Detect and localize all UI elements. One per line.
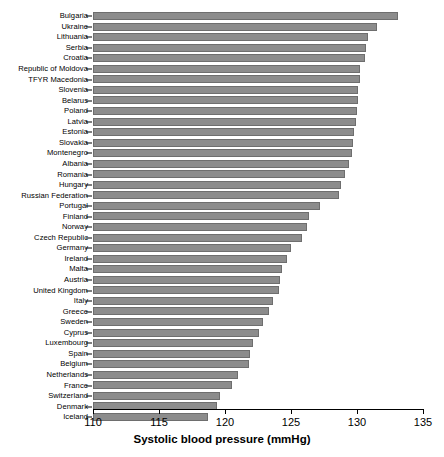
y-axis-tick	[86, 322, 92, 323]
chart-row: Slovenia	[0, 85, 444, 96]
bar	[93, 360, 249, 368]
y-axis-tick	[86, 100, 92, 101]
chart-row: Norway	[0, 222, 444, 233]
chart-row: Belarus	[0, 95, 444, 106]
bar	[93, 371, 238, 379]
bar	[93, 96, 358, 104]
category-label: Latvia	[67, 118, 88, 126]
y-axis-tick	[86, 248, 92, 249]
y-axis-tick	[86, 290, 92, 291]
y-axis-tick	[86, 396, 92, 397]
category-label: Bulgaria	[60, 12, 88, 20]
x-axis-tick	[93, 409, 94, 414]
bar	[93, 191, 339, 199]
y-axis-tick	[86, 47, 92, 48]
y-axis-tick	[86, 406, 92, 407]
chart-row: Ukraine	[0, 22, 444, 33]
category-label: Germany	[56, 245, 88, 253]
chart-row: Serbia	[0, 43, 444, 54]
chart-row: Switzerland	[0, 391, 444, 402]
chart-row: Ireland	[0, 254, 444, 265]
category-label: Denmark	[57, 403, 88, 411]
chart-row: Lithuania	[0, 32, 444, 43]
y-axis-tick	[86, 258, 92, 259]
x-axis-tick-label: 135	[414, 416, 432, 428]
bar	[93, 307, 269, 315]
chart-row: Hungary	[0, 180, 444, 191]
bar	[93, 244, 291, 252]
y-axis-tick	[86, 58, 92, 59]
bar	[93, 75, 360, 83]
category-label: Romania	[57, 171, 88, 179]
chart-row: Republic of Moldova	[0, 64, 444, 75]
y-axis-tick	[86, 364, 92, 365]
y-axis-tick	[86, 174, 92, 175]
bar	[93, 107, 357, 115]
chart-row: Netherlands	[0, 370, 444, 381]
chart-row: Denmark	[0, 401, 444, 412]
chart-row: Austria	[0, 275, 444, 286]
category-label: Belgium	[60, 361, 88, 369]
category-label: Switzerland	[48, 392, 88, 400]
category-label: United Kingdom	[33, 287, 88, 295]
x-axis-tick	[225, 409, 226, 414]
bar	[93, 23, 377, 31]
chart-row: Germany	[0, 243, 444, 254]
x-axis-tick	[159, 409, 160, 414]
chart-row: Spain	[0, 349, 444, 360]
y-axis-tick	[86, 385, 92, 386]
y-axis-tick	[86, 227, 92, 228]
y-axis-tick	[86, 26, 92, 27]
bar	[93, 392, 220, 400]
x-axis-title: Systolic blood pressure (mmHg)	[0, 433, 444, 445]
chart-row: Albania	[0, 159, 444, 170]
chart-row: United Kingdom	[0, 285, 444, 296]
category-label: Lithuania	[57, 34, 88, 42]
plot-area: BulgariaUkraineLithuaniaSerbiaCroatiaRep…	[0, 0, 444, 409]
bar	[93, 212, 309, 220]
bar	[93, 318, 263, 326]
y-axis-tick	[86, 79, 92, 80]
bar	[93, 276, 280, 284]
bar	[93, 202, 320, 210]
category-label: Republic of Moldova	[18, 65, 88, 73]
chart-row: Latvia	[0, 117, 444, 128]
x-axis-tick-label: 125	[282, 416, 300, 428]
chart-row: Belgium	[0, 359, 444, 370]
y-axis-tick	[86, 374, 92, 375]
bar	[93, 65, 360, 73]
y-axis-tick	[86, 206, 92, 207]
y-axis-tick	[86, 280, 92, 281]
category-label: TFYR Macedonia	[28, 76, 88, 84]
bar	[93, 223, 307, 231]
chart-row: Portugal	[0, 201, 444, 212]
category-label: Czech Republic	[34, 234, 88, 242]
category-label: Estonia	[62, 129, 88, 137]
y-axis-tick	[86, 111, 92, 112]
x-axis-line	[93, 409, 423, 410]
y-axis-tick	[86, 343, 92, 344]
category-label: Poland	[64, 107, 88, 115]
category-label: Croatia	[63, 55, 88, 63]
category-label: Ireland	[64, 255, 88, 263]
x-axis-tick	[423, 409, 424, 414]
x-axis-tick-label: 115	[150, 416, 168, 428]
systolic-blood-pressure-bar-chart: BulgariaUkraineLithuaniaSerbiaCroatiaRep…	[0, 0, 444, 457]
y-axis-tick	[86, 311, 92, 312]
bar	[93, 381, 232, 389]
category-label: Netherlands	[47, 371, 89, 379]
y-axis-tick	[86, 132, 92, 133]
category-label: Finland	[63, 213, 88, 221]
category-label: Sweden	[60, 318, 88, 326]
category-label: Slovakia	[59, 139, 88, 147]
category-label: Cyprus	[64, 329, 88, 337]
bar	[93, 160, 349, 168]
category-label: Montenegro	[47, 150, 88, 158]
category-label: Serbia	[66, 44, 88, 52]
bar	[93, 329, 259, 337]
category-label: Russian Federation	[21, 192, 88, 200]
y-axis-tick	[86, 163, 92, 164]
bar	[93, 54, 365, 62]
bar	[93, 118, 356, 126]
chart-row: Italy	[0, 296, 444, 307]
